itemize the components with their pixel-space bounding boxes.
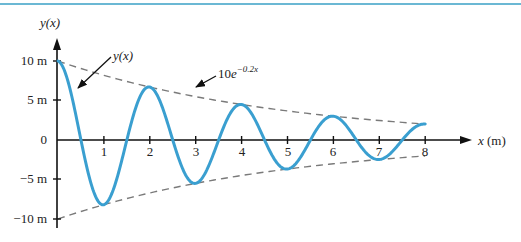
x-tick-label-7: 7 — [376, 144, 383, 159]
damped-oscillation-chart: y(x) x (m) y(x) 10e−0.2x 10 m 5 m 0 −5 m… — [0, 0, 521, 242]
x-tick-label-1: 1 — [101, 144, 108, 159]
x-tick-label-4: 4 — [239, 144, 246, 159]
y-axis-arrow-icon — [53, 38, 61, 50]
y-tick-label-10: 10 m — [21, 53, 47, 68]
envelope-annotation-arrow — [196, 76, 216, 87]
y-tick-label-5: 5 m — [27, 92, 47, 107]
y-tick-label-neg5: −5 m — [20, 171, 47, 186]
x-tick-label-2: 2 — [147, 144, 154, 159]
y-of-x-curve — [58, 61, 425, 205]
y-tick-label-0: 0 — [41, 132, 48, 147]
x-tick-label-6: 6 — [330, 144, 337, 159]
y-axis-title: y(x) — [38, 15, 60, 30]
x-tick-label-3: 3 — [193, 144, 200, 159]
envelope-annotation-label: 10e−0.2x — [218, 64, 258, 81]
x-axis-title: x (m) — [477, 133, 506, 148]
x-axis-arrow-icon — [460, 136, 472, 144]
curve-annotation-arrow — [78, 57, 111, 88]
curve-annotation-label: y(x) — [111, 48, 133, 63]
y-tick-label-neg10: −10 m — [13, 211, 47, 226]
y-axis — [53, 38, 61, 228]
x-tick-label-5: 5 — [285, 144, 292, 159]
x-tick-labels: 1 2 3 4 5 6 7 8 — [101, 144, 429, 159]
x-tick-label-8: 8 — [422, 144, 429, 159]
